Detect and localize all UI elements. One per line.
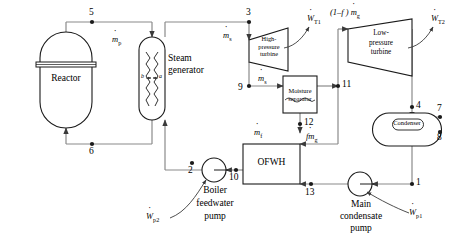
main-condensate-pump-shape [348,172,374,196]
state-point-11: 11 [342,80,351,90]
moisture-separator-label-line1: Moisture [281,88,319,95]
boiler-feedwater-pump-label-line2: feedwater [182,199,248,209]
flow-label-fm-g: fmg [306,132,318,143]
flow-symbol-fm-g: fm [306,132,315,141]
flow-symbol-one-minus-f-m-g: m [351,8,357,17]
work-label-wt1: WT1 [307,14,321,25]
state-point-7: 7 [437,104,442,114]
state-point-13: 13 [305,188,315,198]
work-symbol-wt2: W [431,14,438,23]
lp-turbine-label-line1: Low- [352,30,410,37]
hp-turbine-label-line3: turbine [250,51,288,58]
dot-3 [247,20,251,24]
state-point-9: 9 [238,83,243,93]
flow-label-one-minus-f-m-g: (1–f )mg [330,8,360,19]
flow-prefix-one-minus-f: (1–f ) [330,7,349,17]
work-symbol-wp2: W [146,212,153,221]
main-condensate-pump-label-line1: Main [330,200,392,210]
state-point-5: 5 [89,8,94,18]
flow-label-m-s-mid: ms [258,74,267,85]
work-label-wt2: WT2 [431,14,445,25]
dot-5 [90,20,94,24]
condenser-label: Condenser [391,120,423,127]
work-sub-wp1: p1 [416,212,422,219]
flow-sub-m-s-top: s [229,35,231,42]
lp-turbine-label-line2: pressure [352,40,410,47]
work-label-wp1: Wp1 [409,208,422,219]
diagram-canvas: Reactor Steam generator High- pressure t… [0,0,456,236]
reactor-label: Reactor [40,74,92,84]
work-sub-wt2: T2 [438,18,445,25]
dot-12 [298,122,302,126]
steam-generator-label-line1: Steam [168,54,216,64]
flow-symbol-m-s-top: m [223,31,229,40]
condenser-shape [373,113,442,146]
state-point-1: 1 [416,178,421,188]
dot-1 [410,182,414,186]
main-condensate-pump-label-line3: pump [330,224,392,234]
flow-symbol-m-f: m [254,128,260,137]
lp-turbine-label-line3: turbine [352,49,410,56]
moisture-separator-label-line2: separator [281,96,319,103]
state-point-2: 2 [188,166,193,176]
boiler-feedwater-pump-label-line3: pump [186,212,244,222]
work-sub-wt1: T1 [314,18,321,25]
boiler-feedwater-pump-label-line1: Boiler [186,186,244,196]
dot-13 [309,182,313,186]
hp-turbine-label-line1: High- [250,36,288,43]
flow-sub-fm-g: g [315,136,318,143]
dot-11 [336,84,340,88]
state-point-6: 6 [89,147,94,157]
main-condensate-pump-label-line2: condensate [322,212,400,222]
flow-sub-m-f: f [260,132,262,139]
work-sub-wp2: p2 [153,216,159,223]
state-point-8: 8 [437,133,442,143]
state-point-3: 3 [246,8,251,18]
flow-sub-one-minus-f-m-g: g [357,12,360,19]
steam-generator-label-line2: generator [168,66,220,76]
state-point-4: 4 [416,101,421,111]
sg-coil-label-a: a [159,73,162,79]
flow-sub-m-s-mid: s [264,78,266,85]
flow-symbol-m-s-mid: m [258,74,264,83]
work-label-wp2: Wp2 [146,212,159,223]
dot-7 [438,115,442,119]
work-symbol-wp1: W [409,208,416,217]
flow-label-m-p: mp [112,35,121,46]
work-symbol-wt1: W [307,14,314,23]
flow-symbol-m-p: m [112,35,118,44]
state-point-10: 10 [229,173,239,183]
boiler-feedwater-pump-shape [202,158,228,182]
dot-4 [410,105,414,109]
flow-label-m-s-top: ms [223,31,232,42]
ofwh-label: OFWH [243,158,300,168]
flow-label-m-f: mf [254,128,262,139]
sg-coil-label-b: b [141,73,144,79]
dot-9 [247,84,251,88]
flow-sub-m-p: p [118,39,121,46]
